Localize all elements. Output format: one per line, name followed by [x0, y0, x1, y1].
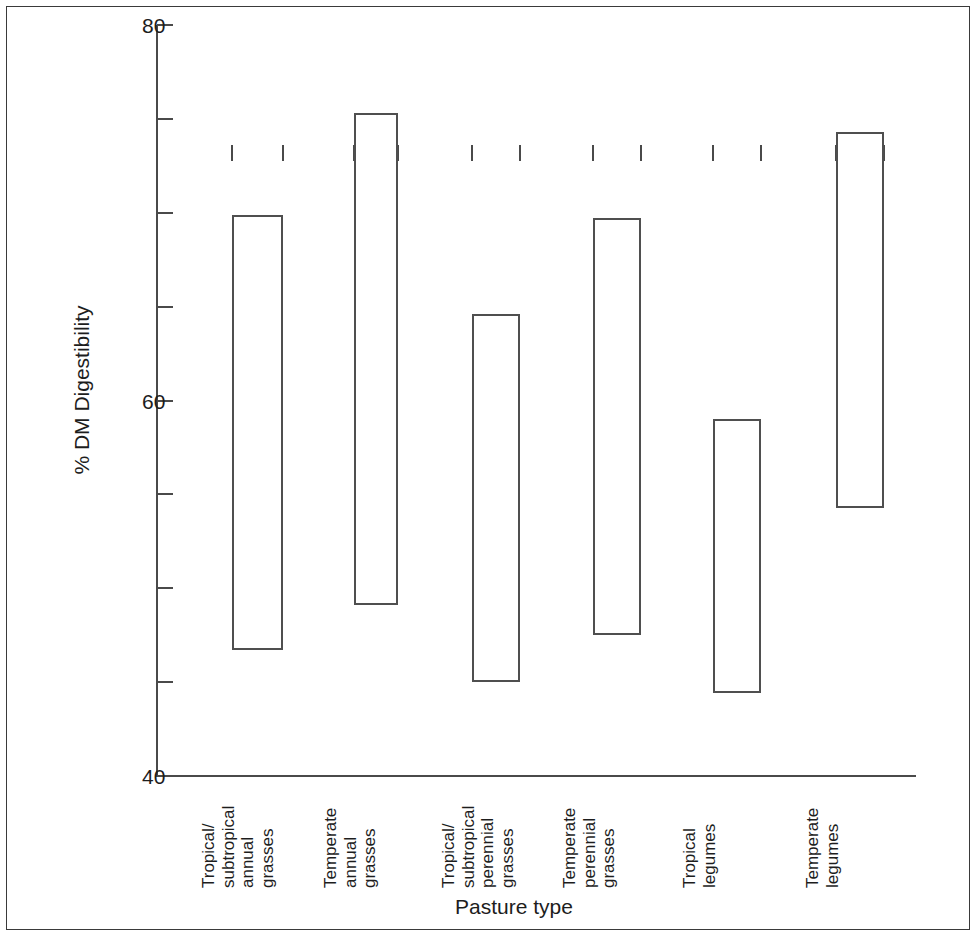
category-label-line: grasses — [360, 808, 380, 888]
x-axis-title-text: Pasture type — [455, 895, 573, 918]
x-axis-tick — [760, 145, 762, 161]
y-axis-tick-label: 40 — [142, 766, 156, 787]
range-bar — [354, 113, 398, 605]
x-axis-tick — [592, 145, 594, 161]
category-label-line: Temperate — [560, 808, 580, 888]
range-bar — [836, 132, 884, 508]
category-label-line: Tropical/ — [439, 806, 459, 888]
x-axis-category-label: Tropicallegumes — [680, 824, 719, 888]
x-axis-category-label: Temperateperennialgrasses — [560, 808, 619, 888]
x-axis-tick — [712, 145, 714, 161]
category-label-line: Temperate — [803, 808, 823, 888]
figure-canvas: 406080 Tropical/subtropicalannualgrasses… — [0, 0, 978, 938]
x-axis-line — [156, 775, 916, 777]
y-axis-tick — [157, 681, 173, 683]
category-label-line: Temperate — [321, 808, 341, 888]
category-label-line: perennial — [478, 806, 498, 888]
x-axis-title: Pasture type — [0, 895, 978, 919]
x-axis-category-label: Tropical/subtropicalperennialgrasses — [439, 806, 517, 888]
category-label-line: subtropical — [459, 806, 479, 888]
x-axis-tick — [519, 145, 521, 161]
category-label-line: annual — [341, 808, 361, 888]
y-axis-tick-label: 80 — [142, 15, 156, 36]
x-axis-tick — [640, 145, 642, 161]
y-axis-tick — [157, 118, 173, 120]
y-axis-tick — [157, 212, 173, 214]
x-axis-tick — [282, 145, 284, 161]
category-label-line: legumes — [823, 808, 843, 888]
category-label-line: grasses — [599, 808, 619, 888]
x-axis-category-label: Temperatelegumes — [803, 808, 842, 888]
category-label-line: Tropical — [680, 824, 700, 888]
range-bar — [232, 215, 283, 651]
category-label-line: legumes — [700, 824, 720, 888]
category-label-line: grasses — [498, 806, 518, 888]
category-label-line: grasses — [258, 806, 278, 888]
range-bar — [593, 218, 641, 635]
x-axis-category-label: Temperateannualgrasses — [321, 808, 380, 888]
y-axis-title: % DM Digestibility — [62, 290, 102, 490]
y-axis-tick — [157, 306, 173, 308]
y-axis-tick — [157, 587, 173, 589]
y-axis-title-text: % DM Digestibility — [70, 305, 94, 474]
category-label-line: annual — [238, 806, 258, 888]
category-label-line: perennial — [580, 808, 600, 888]
range-bar — [472, 314, 520, 682]
y-axis-tick — [157, 493, 173, 495]
y-axis-tick-label: 60 — [142, 390, 156, 411]
x-axis-category-label: Tropical/subtropicalannualgrasses — [199, 806, 277, 888]
category-label-line: Tropical/ — [199, 806, 219, 888]
range-bar — [713, 419, 761, 693]
category-label-line: subtropical — [219, 806, 239, 888]
x-axis-tick — [231, 145, 233, 161]
x-axis-tick — [471, 145, 473, 161]
